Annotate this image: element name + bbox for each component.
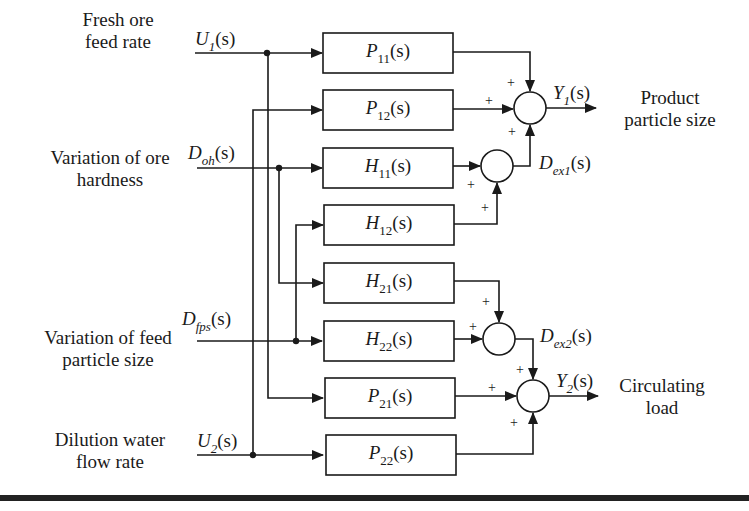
output-label-y2: Circulating load <box>602 375 722 419</box>
block-label-p22: P22(s) <box>326 442 456 466</box>
signal-y1: Y1(s) <box>553 82 590 106</box>
sum-dex1 <box>481 150 513 182</box>
signal-dex2: Dex2(s) <box>540 325 592 349</box>
block-label-h12: H12(s) <box>324 212 454 236</box>
signal-u2: U2(s) <box>197 430 237 454</box>
sign-y2-bottom: + <box>510 416 518 430</box>
signal-y2: Y2(s) <box>556 370 593 394</box>
junction-dot-u1 <box>264 50 270 56</box>
input-label-dfps: Variation of feed particle size <box>28 327 188 371</box>
block-label-h21: H21(s) <box>324 270 454 294</box>
signal-dex1: Dex1(s) <box>539 152 591 176</box>
signal-u1: U1(s) <box>195 28 235 52</box>
output-label-y1: Product particle size <box>600 87 740 131</box>
block-label-p21: P21(s) <box>325 385 455 409</box>
signal-dfps: Dfps(s) <box>182 308 231 332</box>
junction-dot-dfps <box>293 338 299 344</box>
sign-y1-bottom: + <box>508 125 516 139</box>
sum-y2 <box>517 380 549 412</box>
sign-y1-top: + <box>507 76 515 90</box>
sign-dex1-left: + <box>467 178 475 192</box>
signal-doh: Doh(s) <box>188 142 235 166</box>
junction-dot-u2 <box>250 452 256 458</box>
sign-y1-left: + <box>485 94 493 108</box>
sign-dex1-bottom: + <box>481 201 489 215</box>
sign-dex2-top: + <box>482 295 490 309</box>
input-label-u1: Fresh ore feed rate <box>58 9 178 53</box>
sum-y1 <box>514 92 546 124</box>
sign-y2-left: + <box>488 381 496 395</box>
block-label-p12: P12(s) <box>323 97 453 121</box>
junction-dot-doh <box>276 165 282 171</box>
sign-dex2-left: + <box>469 320 477 334</box>
bottom-rule <box>0 495 749 501</box>
input-label-doh: Variation of ore hardness <box>30 147 190 191</box>
sum-dex2 <box>483 323 515 355</box>
sign-y2-top: + <box>516 363 524 377</box>
block-label-p11: P11(s) <box>323 40 453 64</box>
block-label-h11: H11(s) <box>323 155 453 179</box>
input-label-u2: Dilution water flow rate <box>40 429 180 473</box>
block-label-h22: H22(s) <box>324 328 454 352</box>
